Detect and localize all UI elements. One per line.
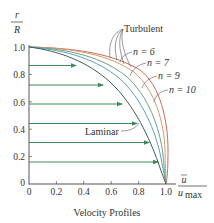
laminar-annotation: Laminar bbox=[85, 123, 139, 137]
svg-text:0.8: 0.8 bbox=[13, 70, 25, 80]
svg-text:u: u bbox=[178, 187, 183, 198]
svg-text:1.0: 1.0 bbox=[160, 187, 172, 197]
svg-text:0.6: 0.6 bbox=[13, 98, 25, 108]
svg-text:0.2: 0.2 bbox=[13, 152, 25, 162]
x-tick-labels: 0 0.2 0.4 0.6 0.8 1.0 bbox=[27, 187, 173, 197]
y-axis-label: r R bbox=[11, 9, 23, 35]
x-axis-label: u u max bbox=[178, 174, 207, 200]
svg-text:0.4: 0.4 bbox=[13, 125, 25, 135]
svg-text:Turbulent: Turbulent bbox=[124, 23, 163, 34]
velocity-profile-chart: r R 1.0 0.8 0.6 0.4 0.2 0 0 0.2 0.4 0.6 … bbox=[0, 0, 214, 223]
svg-text:0.8: 0.8 bbox=[133, 187, 145, 197]
svg-text:max: max bbox=[185, 189, 202, 200]
svg-text:R: R bbox=[13, 24, 20, 35]
chart-caption: Velocity Profiles bbox=[0, 207, 214, 218]
svg-text:n = 6: n = 6 bbox=[133, 46, 155, 57]
svg-text:0.4: 0.4 bbox=[78, 187, 90, 197]
curve-n6 bbox=[29, 47, 166, 184]
curve-laminar bbox=[29, 47, 166, 184]
curve-n7 bbox=[29, 47, 166, 184]
svg-text:1.0: 1.0 bbox=[13, 43, 25, 53]
svg-text:u: u bbox=[182, 174, 187, 185]
velocity-arrows bbox=[29, 66, 158, 163]
y-tick-labels: 1.0 0.8 0.6 0.4 0.2 0 bbox=[13, 43, 25, 189]
svg-text:0.6: 0.6 bbox=[105, 187, 117, 197]
svg-text:0: 0 bbox=[20, 178, 25, 188]
svg-text:n = 9: n = 9 bbox=[158, 70, 180, 81]
svg-text:r: r bbox=[15, 9, 19, 20]
svg-text:n = 7: n = 7 bbox=[147, 57, 170, 68]
curve-n9 bbox=[29, 47, 166, 184]
svg-text:0: 0 bbox=[27, 187, 32, 197]
svg-text:Laminar: Laminar bbox=[85, 126, 120, 137]
svg-text:0.2: 0.2 bbox=[50, 187, 62, 197]
svg-text:n = 10: n = 10 bbox=[169, 84, 196, 95]
